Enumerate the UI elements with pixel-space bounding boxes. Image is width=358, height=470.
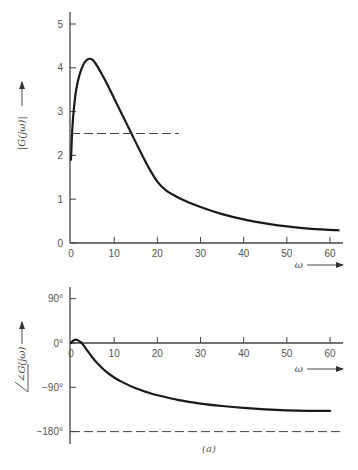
phase-y-axis-title: ∠G(jω): [15, 322, 28, 392]
phase-x-axis-title: ω: [295, 363, 343, 374]
x-tick-label: 40: [238, 348, 250, 359]
x-tick-label: 60: [324, 248, 336, 259]
magnitude-plot: 012345 0102030405060 |G(jω)| ω: [16, 12, 343, 270]
y-tick-label: 90°: [48, 293, 63, 304]
magnitude-x-axis-title: ω: [295, 259, 343, 270]
phase-x-label: ω: [295, 363, 303, 374]
y-tick-label: 4: [57, 62, 63, 73]
magnitude-x-label: ω: [295, 259, 303, 270]
x-tick-label: 20: [152, 348, 164, 359]
x-tick-label: 30: [195, 248, 207, 259]
y-tick-label: −180°: [36, 426, 63, 437]
angle-symbol-icon: [15, 382, 28, 392]
phase-plot: 90°0°−90°−180° 0102030405060 ∠G(jω) ω: [15, 287, 343, 444]
magnitude-series: [71, 59, 339, 231]
x-tick-label: 20: [152, 248, 164, 259]
x-tick-label: 0: [68, 348, 74, 359]
x-tick-label: 50: [281, 348, 293, 359]
magnitude-y-label: |G(jω)|: [16, 116, 28, 150]
series-magnitude: [71, 59, 339, 231]
magnitude-y-axis-title: |G(jω)|: [16, 82, 28, 150]
y-tick-label: 2: [57, 150, 63, 161]
y-tick-label: 1: [57, 194, 63, 205]
phase-y-label: ∠G(jω): [16, 346, 27, 382]
y-tick-label: 0°: [53, 338, 63, 349]
y-tick-label: 0: [57, 238, 63, 249]
phase-x-ticks: 0102030405060: [68, 337, 336, 359]
y-tick-label: 3: [57, 106, 63, 117]
x-tick-label: 50: [281, 248, 293, 259]
y-tick-label: 5: [57, 19, 63, 30]
figure-caption: (a): [202, 443, 216, 454]
x-tick-label: 60: [324, 348, 336, 359]
x-tick-label: 10: [109, 348, 121, 359]
x-tick-label: 10: [109, 248, 121, 259]
x-tick-label: 0: [68, 248, 74, 259]
figure: 012345 0102030405060 |G(jω)| ω 90°0°−90°…: [0, 0, 358, 470]
x-tick-label: 40: [238, 248, 250, 259]
y-tick-label: −90°: [42, 382, 63, 393]
x-tick-label: 30: [195, 348, 207, 359]
magnitude-x-ticks: 0102030405060: [68, 237, 336, 259]
